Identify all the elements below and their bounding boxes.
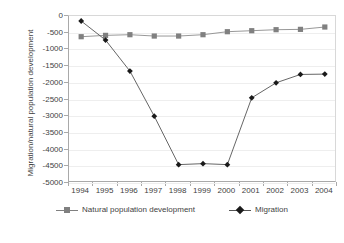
chart-container: Migration/natural population development… xyxy=(0,0,344,243)
series-migration xyxy=(78,18,327,167)
data-point-diamond xyxy=(249,95,255,101)
y-axis-tick-label: -2500 xyxy=(23,94,63,103)
legend-item-natural-population-development[interactable]: Natural population development xyxy=(56,205,195,216)
y-axis-tick-label: -2000 xyxy=(23,77,63,86)
data-point-square xyxy=(152,33,157,38)
y-axis-tick-label: -4000 xyxy=(23,144,63,153)
data-point-square xyxy=(249,28,254,33)
x-axis-tick-label: 2004 xyxy=(307,186,341,195)
data-point-diamond xyxy=(176,162,182,168)
legend-label: Natural population development xyxy=(82,205,195,215)
diamond-marker-key xyxy=(229,206,251,216)
data-point-diamond xyxy=(200,161,206,167)
data-point-diamond xyxy=(151,113,157,119)
y-axis-tick-label: -3500 xyxy=(23,127,63,136)
data-point-square xyxy=(79,34,84,39)
y-axis-tick-label: -5000 xyxy=(23,178,63,187)
data-point-square xyxy=(273,27,278,32)
series-natural-population-development xyxy=(79,24,328,39)
plot-area xyxy=(68,15,336,182)
data-point-square xyxy=(127,32,132,37)
data-point-square xyxy=(176,33,181,38)
y-axis-tick-label: -4500 xyxy=(23,161,63,170)
y-axis-tick-label: -500 xyxy=(23,27,63,36)
chart-legend: Natural population development Migration xyxy=(0,205,344,216)
legend-item-migration[interactable]: Migration xyxy=(229,205,288,216)
data-point-diamond xyxy=(322,71,328,77)
series-line xyxy=(81,21,325,165)
y-axis-tick-label: -1500 xyxy=(23,61,63,70)
plot-inner xyxy=(69,16,335,181)
y-axis-tick-label: 0 xyxy=(23,11,63,20)
data-point-square xyxy=(225,29,230,34)
y-axis-tick-label: -1000 xyxy=(23,44,63,53)
data-point-square xyxy=(298,27,303,32)
square-marker-key xyxy=(56,206,78,216)
series-layer xyxy=(69,16,337,183)
y-axis-tick-label: -3000 xyxy=(23,111,63,120)
gridline xyxy=(69,183,335,184)
data-point-diamond xyxy=(298,72,304,78)
data-point-diamond xyxy=(224,162,230,168)
data-point-diamond xyxy=(273,80,279,86)
data-point-square xyxy=(200,32,205,37)
data-point-square xyxy=(322,24,327,29)
legend-label: Migration xyxy=(255,205,288,215)
